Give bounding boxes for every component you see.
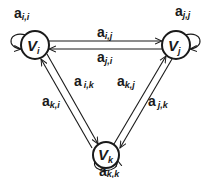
edge-label-akj: ak,j	[117, 73, 135, 90]
edge-label-aii: ai,i	[14, 5, 30, 22]
edge-i-to-k	[47, 54, 98, 144]
edge-label-aki: ak,i	[42, 93, 60, 110]
edge-label-aji: aj,i	[97, 49, 113, 66]
edge-label-ajk: aj,k	[148, 93, 169, 110]
edge-label-ajj: aj,j	[175, 3, 191, 20]
edge-label-aij: ai,j	[97, 24, 113, 41]
graph-canvas: Vi Vj Vk ai,i aj,j ai,j aj,i ai,k ak,j a…	[0, 0, 212, 178]
edge-label-aik: ai,k	[74, 73, 95, 90]
